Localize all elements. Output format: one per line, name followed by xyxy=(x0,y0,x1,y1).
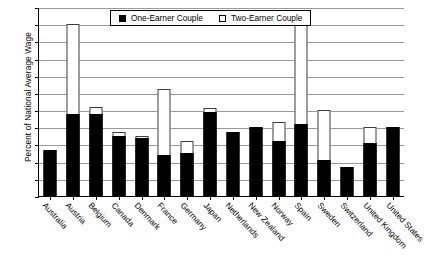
x-label-cell: New Zealand xyxy=(244,199,267,277)
bar-group[interactable] xyxy=(199,8,222,196)
bar-group[interactable] xyxy=(290,8,313,196)
bar-one-earner[interactable] xyxy=(295,124,308,196)
x-label-cell: Belgium xyxy=(84,199,107,277)
x-label-cell: Austria xyxy=(61,199,84,277)
x-label-cell: United States xyxy=(381,199,404,277)
bar-group[interactable] xyxy=(39,8,62,196)
x-label-cell: Norway xyxy=(267,199,290,277)
bar-group[interactable] xyxy=(85,8,108,196)
hollow-square-icon xyxy=(219,15,226,22)
bar-one-earner[interactable] xyxy=(112,136,125,196)
chart-legend: One-Earner CoupleTwo-Earner Couple xyxy=(110,10,311,26)
legend-label: One-Earner Couple xyxy=(131,13,203,23)
bar-group[interactable] xyxy=(336,8,359,196)
x-label-cell: Spain xyxy=(290,199,313,277)
x-label-cell: Denmark xyxy=(130,199,153,277)
bar-one-earner[interactable] xyxy=(135,138,148,196)
bar-one-earner[interactable] xyxy=(340,167,353,196)
bar-group[interactable] xyxy=(313,8,336,196)
bar-group[interactable] xyxy=(62,8,85,196)
bar-one-earner[interactable] xyxy=(249,127,262,196)
bar-series-area xyxy=(39,8,404,196)
x-label-cell: Japan xyxy=(198,199,221,277)
bar-one-earner[interactable] xyxy=(226,132,239,196)
x-tick-label: Japan xyxy=(201,201,223,224)
x-label-cell: Germany xyxy=(175,199,198,277)
filled-square-icon xyxy=(119,15,126,22)
bar-one-earner[interactable] xyxy=(181,153,194,196)
bar-group[interactable] xyxy=(267,8,290,196)
bar-group[interactable] xyxy=(153,8,176,196)
bar-one-earner[interactable] xyxy=(44,150,57,196)
bar-group[interactable] xyxy=(358,8,381,196)
bar-group[interactable] xyxy=(176,8,199,196)
bar-group[interactable] xyxy=(107,8,130,196)
bar-one-earner[interactable] xyxy=(204,112,217,196)
x-label-cell: Netherlands xyxy=(221,199,244,277)
bar-one-earner[interactable] xyxy=(67,114,80,196)
x-axis-labels: AustraliaAustriaBelgiumCanadaDenmarkFran… xyxy=(38,199,404,277)
bar-group[interactable] xyxy=(381,8,404,196)
bar-one-earner[interactable] xyxy=(363,143,376,196)
bar-group[interactable] xyxy=(244,8,267,196)
bar-one-earner[interactable] xyxy=(272,141,285,196)
legend-entry[interactable]: Two-Earner Couple xyxy=(219,13,302,23)
x-label-cell: Switzerland xyxy=(335,199,358,277)
legend-entry[interactable]: One-Earner Couple xyxy=(119,13,203,23)
x-label-cell: France xyxy=(152,199,175,277)
bar-group[interactable] xyxy=(130,8,153,196)
x-label-cell: Sweden xyxy=(313,199,336,277)
x-label-cell: United Kingdom xyxy=(358,199,381,277)
plot-area xyxy=(38,8,404,197)
y-axis-title: Percent of National Average Wage xyxy=(23,12,33,182)
bar-one-earner[interactable] xyxy=(90,114,103,196)
legend-label: Two-Earner Couple xyxy=(231,13,302,23)
bar-one-earner[interactable] xyxy=(318,160,331,196)
x-label-cell: Canada xyxy=(107,199,130,277)
bar-one-earner[interactable] xyxy=(158,155,171,196)
x-label-cell: Australia xyxy=(38,199,61,277)
y-tick-mark xyxy=(35,197,39,198)
bar-group[interactable] xyxy=(222,8,245,196)
bar-one-earner[interactable] xyxy=(386,127,399,196)
x-tick-label: United States xyxy=(384,201,425,244)
x-tick-label: Spain xyxy=(292,201,313,223)
